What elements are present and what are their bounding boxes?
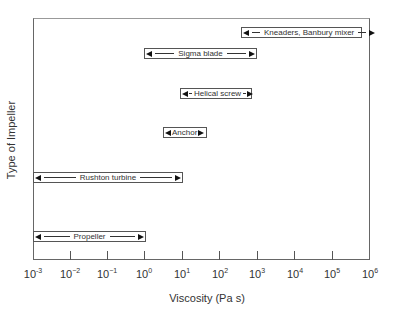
arrow-left-icon [146,51,152,57]
x-tick-label: 103 [249,267,265,280]
bar-label: Helical screw [193,89,242,98]
x-tick [332,251,333,260]
x-tick-label: 101 [174,267,190,280]
arrow-left-icon [243,30,249,36]
y-axis-label: Type of Impeller [5,101,17,179]
x-tick-label: 106 [362,267,378,280]
x-tick-label: 100 [136,267,152,280]
bar-sigma-blade: Sigma blade [144,48,257,59]
x-tick-label: 104 [287,267,303,280]
arrow-right-icon [247,91,253,97]
x-tick [70,251,71,260]
bar-label: Propeller [73,232,107,241]
bar-anchor: Anchor [163,127,207,138]
x-tick-label: 102 [212,267,228,280]
bar-label: Rushton turbine [79,173,137,182]
x-tick-label: 10−1 [97,267,117,280]
bar-label: Anchor [171,128,198,137]
bar-label: Sigma blade [177,49,223,58]
bar-helical-screw: Helical screw [180,88,252,99]
bar-rushton-turbine: Rushton turbine [33,172,183,183]
x-tick-label: 10-3 [24,267,42,280]
bar-label: Kneaders, Banbury mixer [263,28,355,37]
arrow-right-icon [138,234,144,240]
x-tick [182,251,183,260]
arrow-left-icon [182,91,188,97]
arrow-right-icon [198,130,204,136]
arrow-right-icon [175,175,181,181]
bar-kneaders: Kneaders, Banbury mixer [241,27,362,38]
x-tick [219,251,220,260]
x-tick [257,251,258,260]
x-tick [107,251,108,260]
arrow-right-icon [249,51,255,57]
x-tick-label: 10−2 [60,267,80,280]
arrow-right-icon [369,30,375,36]
x-tick [144,251,145,260]
impeller-viscosity-chart: Kneaders, Banbury mixer Sigma blade Heli… [0,0,394,321]
x-tick [294,251,295,260]
arrow-left-icon [35,234,41,240]
x-tick-label: 105 [324,267,340,280]
x-axis-label: Viscosity (Pa s) [0,292,394,304]
arrow-left-icon [35,175,41,181]
bar-propeller: Propeller [33,231,146,242]
